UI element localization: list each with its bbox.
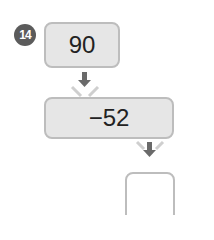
- down-arrow-icon: [70, 70, 100, 100]
- down-arrow-icon: [135, 140, 165, 170]
- start-value-box: 90: [44, 22, 120, 68]
- problem-number-badge: 14: [14, 24, 36, 46]
- result-answer-box[interactable]: [125, 172, 175, 215]
- start-value: 90: [69, 31, 96, 59]
- operation-value: −52: [89, 104, 130, 132]
- operation-box: −52: [44, 97, 174, 139]
